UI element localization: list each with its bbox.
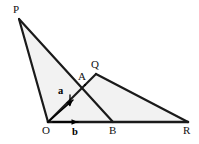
vertex-label-O: O (42, 125, 50, 136)
geometry-figure: P O B R Q A a b (0, 0, 199, 144)
point-A-marker (84, 84, 86, 86)
vertex-label-A: A (78, 71, 86, 82)
geometry-canvas (0, 0, 199, 144)
vector-label-b: b (72, 127, 78, 138)
vertex-label-R: R (183, 125, 190, 136)
vertex-label-B: B (109, 125, 116, 136)
vertex-label-Q: Q (91, 59, 99, 70)
vector-label-a: a (58, 86, 63, 97)
vertex-label-P: P (13, 4, 19, 15)
